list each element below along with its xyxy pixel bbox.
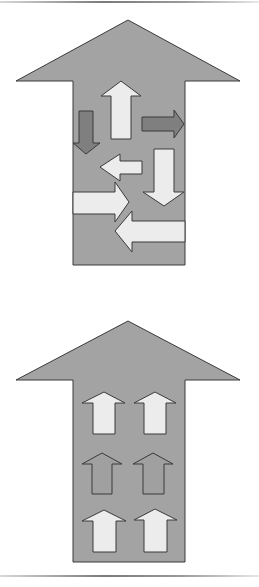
bottom-divider (0, 575, 259, 577)
diagram-chaotic-arrows (0, 0, 259, 280)
big-up-arrow-icon (16, 321, 240, 562)
diagram-aligned-arrows (0, 300, 259, 570)
